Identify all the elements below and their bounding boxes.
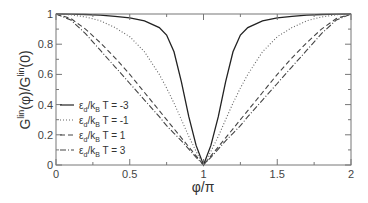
y-tick-label: 0.2 — [38, 129, 53, 141]
series-line-3 — [56, 14, 351, 165]
legend: εd/kB T = -3εd/kB T = -1εd/kB T = 1εd/kB… — [60, 100, 129, 158]
y-tick-label: 0.6 — [38, 68, 53, 80]
plot-frame — [56, 14, 351, 165]
plot-curves — [56, 14, 351, 165]
x-tick-label: 2 — [348, 168, 354, 180]
legend-label: εd/kB T = -3 — [79, 100, 129, 113]
y-tick-label: 0 — [47, 159, 53, 171]
legend-label: εd/kB T = -1 — [79, 115, 129, 128]
y-axis-title: Glin(φ)/Glin(0) — [16, 50, 33, 129]
x-tick-label: 0 — [53, 168, 59, 180]
legend-label: εd/kB T = 1 — [79, 130, 126, 143]
series-line-0 — [56, 14, 351, 165]
series-line-1 — [56, 14, 351, 165]
x-tick-label: 1.5 — [270, 168, 285, 180]
x-tick-label: 0.5 — [122, 168, 137, 180]
svg-text:Glin(φ)/Glin(0): Glin(φ)/Glin(0) — [16, 50, 33, 129]
legend-label: εd/kB T = 3 — [79, 145, 126, 158]
y-tick-label: 1 — [47, 8, 53, 20]
y-tick-label: 0.4 — [38, 99, 53, 111]
x-axis-title: φ/π — [192, 179, 215, 195]
series-line-2 — [56, 14, 351, 165]
chart: 00.511.5200.20.40.60.81 φ/π Glin(φ)/Glin… — [0, 0, 368, 203]
y-tick-label: 0.8 — [38, 38, 53, 50]
